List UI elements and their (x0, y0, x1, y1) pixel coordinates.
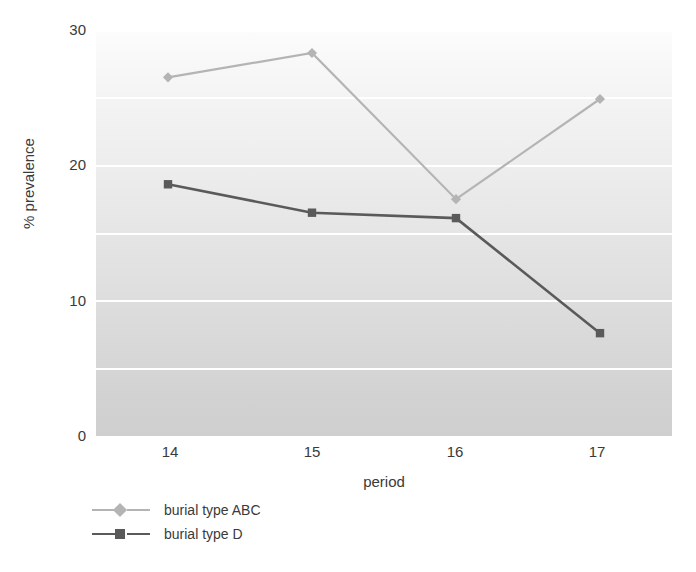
legend-key-d (92, 527, 150, 541)
y-tick-label-30: 30 (46, 22, 86, 37)
x-axis-title: period (96, 473, 672, 490)
markers-series-burial-type-d (164, 180, 604, 337)
y-axis-tick-labels: 30 20 10 0 (40, 0, 86, 572)
legend-label-abc: burial type ABC (164, 502, 261, 518)
data-point-burial-type-d-16 (452, 214, 460, 222)
y-tick-label-10: 10 (46, 293, 86, 308)
legend-item-burial-type-d: burial type D (92, 522, 261, 546)
chart-legend: burial type ABC burial type D (92, 498, 261, 546)
plot-area (96, 30, 672, 436)
chart-figure: % prevalence 30 20 10 0 14 15 16 17 peri… (0, 0, 696, 572)
data-point-burial-type-d-15 (308, 209, 316, 217)
x-tick-label-15: 15 (282, 443, 342, 460)
line-series-burial-type-abc (168, 53, 600, 199)
y-axis-title: % prevalence (20, 94, 37, 274)
x-tick-label-16: 16 (425, 443, 485, 460)
data-point-burial-type-d-14 (164, 180, 172, 188)
y-tick-label-0: 0 (46, 428, 86, 443)
data-point-burial-type-abc-14 (163, 72, 173, 82)
series-plot (96, 30, 672, 436)
legend-key-abc (92, 503, 150, 517)
line-series-burial-type-d (168, 184, 600, 333)
legend-label-d: burial type D (164, 526, 243, 542)
x-tick-label-17: 17 (567, 443, 627, 460)
data-point-burial-type-d-17 (596, 329, 604, 337)
x-tick-label-14: 14 (140, 443, 200, 460)
square-marker-icon (115, 529, 125, 539)
y-tick-label-20: 20 (46, 157, 86, 172)
legend-item-burial-type-abc: burial type ABC (92, 498, 261, 522)
